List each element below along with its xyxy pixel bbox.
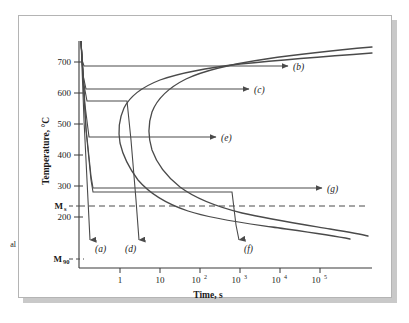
x-tick-exponent-1e4: 4: [284, 274, 287, 280]
y-tick-label-700: 700: [58, 57, 72, 67]
x-tick-marks: [120, 268, 320, 273]
x-axis-title: Time, s: [193, 290, 223, 300]
ttt-plot-svg: 700 600 500 400 300 200 M s M 90 Tempera…: [0, 0, 409, 323]
y-tick-label-500: 500: [58, 119, 72, 129]
curve-label-a: (a): [95, 244, 106, 255]
path-d-hold-575-then-quench: [81, 41, 139, 240]
y-tick-label-400: 400: [58, 150, 72, 160]
x-tick-exponent-1e2: 2: [204, 274, 207, 280]
ms-label-subscript: s: [64, 205, 67, 212]
x-tick-mantissa-1e2: 10: [192, 275, 202, 285]
y-tick-label-300: 300: [58, 181, 72, 191]
curve-label-e: (e): [221, 133, 232, 144]
path-f-hold-300-then-quench: [81, 41, 239, 240]
x-tick-exponent-1e3: 3: [244, 274, 247, 280]
m90-label: M: [54, 254, 63, 264]
y-axis-title: Temperature, °C: [41, 117, 51, 185]
curve-label-f: (f): [244, 244, 253, 255]
x-tick-label-1e4: 10 4: [272, 274, 288, 285]
x-tick-label-1e2: 10 2: [192, 274, 208, 285]
curve-label-b: (b): [293, 62, 304, 73]
ttt-curve-transformation-finish: [149, 47, 372, 236]
y-tick-labels: 700 600 500 400 300 200: [58, 57, 72, 222]
curve-label-g: (g): [327, 184, 338, 195]
x-tick-mantissa-1e5: 10: [312, 275, 322, 285]
figure-root: al 700 600: [0, 0, 409, 323]
x-tick-label-1e3: 10 3: [232, 274, 248, 285]
ms-axis-label-group: M s: [55, 201, 80, 212]
curve-label-c: (c): [254, 85, 265, 96]
curve-label-d: (d): [125, 244, 136, 255]
ttt-curve-transformation-start: [119, 53, 372, 239]
y-tick-label-600: 600: [58, 88, 72, 98]
path-c-hold-615: [81, 41, 249, 89]
x-tick-mantissa-1e3: 10: [232, 275, 242, 285]
ms-label: M: [55, 201, 64, 211]
y-tick-label-200: 200: [58, 212, 72, 222]
m90-label-subscript: 90: [63, 258, 70, 265]
x-tick-labels: 1 10 10 2 10 3 10 4 10 5: [118, 274, 327, 285]
x-tick-label-10: 10: [156, 275, 166, 285]
path-g-hold-300: [81, 41, 322, 188]
x-tick-exponent-1e5: 5: [324, 274, 327, 280]
x-tick-mantissa-1e4: 10: [272, 275, 282, 285]
x-tick-label-1: 1: [118, 275, 123, 285]
x-tick-label-1e5: 10 5: [312, 274, 328, 285]
